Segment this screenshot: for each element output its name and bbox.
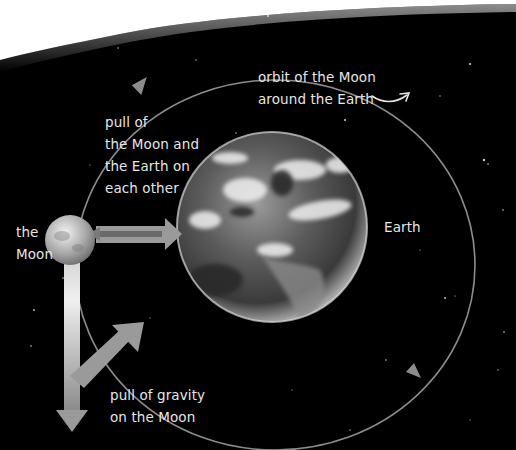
- orbit-label-line2: around the Earth: [258, 88, 376, 110]
- mutual-pull-label-line4: each other: [105, 177, 199, 199]
- moon-label-line1: the: [16, 221, 53, 243]
- mutual-pull-label-line2: the Moon and: [105, 133, 199, 155]
- earth-label-text: Earth: [384, 219, 421, 235]
- orbit-label: orbit of the Moon around the Earth: [258, 66, 376, 110]
- mutual-pull-label-line3: the Earth on: [105, 155, 199, 177]
- earth-label: Earth: [384, 216, 421, 238]
- gravity-label: pull of gravity on the Moon: [110, 384, 205, 428]
- moon-label-line2: Moon: [16, 243, 53, 265]
- mutual-pull-label: pull of the Moon and the Earth on each o…: [105, 111, 199, 199]
- moon-label: the Moon: [16, 221, 53, 265]
- gravity-label-line1: pull of gravity: [110, 384, 205, 406]
- mutual-pull-label-line1: pull of: [105, 111, 199, 133]
- orbit-label-line1: orbit of the Moon: [258, 66, 376, 88]
- gravity-label-line2: on the Moon: [110, 406, 205, 428]
- earth-globe: [177, 132, 367, 322]
